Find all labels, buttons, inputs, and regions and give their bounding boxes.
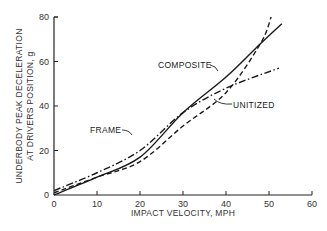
x-axis-title: IMPACT VELOCITY, MPH bbox=[131, 208, 235, 218]
x-tick-label: 10 bbox=[92, 199, 102, 209]
x-tick-label: 0 bbox=[51, 199, 56, 209]
annotation-frame: FRAME bbox=[90, 125, 121, 135]
y-tick-label: 80 bbox=[39, 12, 49, 22]
x-tick-label: 50 bbox=[264, 199, 274, 209]
y-tick-label: 0 bbox=[44, 190, 49, 200]
y-tick-label: 40 bbox=[39, 101, 49, 111]
y-axis-title-line2: AT DRIVERS POSITION, g bbox=[25, 51, 35, 160]
y-axis-title-line1: UNDERBODY PEAK DECELERATION bbox=[14, 28, 24, 183]
annotation-unitized-arrow bbox=[214, 99, 232, 104]
annotation-composite: COMPOSITE bbox=[158, 60, 212, 70]
y-ticks: 020406080 bbox=[39, 12, 58, 200]
x-ticks: 0102030405060 bbox=[51, 191, 317, 209]
y-tick-label: 60 bbox=[39, 57, 49, 67]
annotation-unitized: UNITIZED bbox=[233, 100, 275, 110]
x-tick-label: 60 bbox=[307, 199, 317, 209]
chart: 020406080 0102030405060 IMPACT VELOCITY,… bbox=[0, 0, 327, 231]
annotation-frame-arrow bbox=[122, 130, 132, 135]
y-tick-label: 20 bbox=[39, 146, 49, 156]
